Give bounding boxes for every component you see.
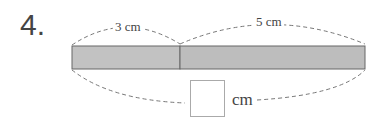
brace-total-left: [72, 70, 185, 103]
answer-box[interactable]: [190, 80, 225, 117]
bar-segment-3cm: [72, 46, 180, 69]
bar-segment-5cm: [180, 46, 365, 69]
answer-unit: cm: [232, 90, 253, 110]
brace-total-right: [257, 70, 365, 100]
label-3cm: 3 cm: [113, 20, 143, 34]
label-5cm: 5 cm: [254, 15, 284, 29]
